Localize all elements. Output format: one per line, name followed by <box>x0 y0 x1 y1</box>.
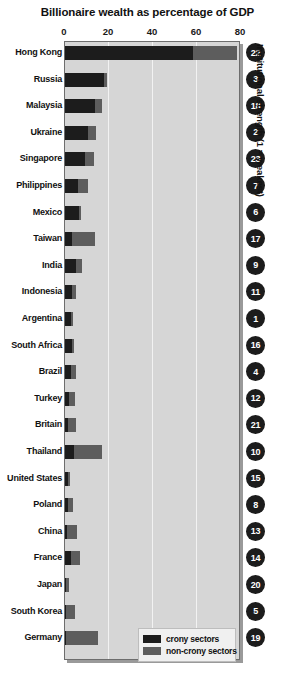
bar-segment-crony <box>65 126 88 140</box>
chart-title: Billionaire wealth as percentage of GDP <box>0 6 295 18</box>
bar-segment-non-crony <box>68 498 72 512</box>
category-label-thailand: Thailand <box>0 446 62 456</box>
category-label-ukraine: Ukraine <box>0 127 62 137</box>
category-label-indonesia: Indonesia <box>0 286 62 296</box>
institutional-strength-caption: Institutional strength (1 = weakest) <box>255 44 266 224</box>
bar-row <box>65 392 75 406</box>
category-label-hong-kong: Hong Kong <box>0 47 62 57</box>
badge-rank: 12 <box>246 389 265 408</box>
bar-segment-non-crony <box>72 339 74 353</box>
bar-row <box>65 472 70 486</box>
badge-rank: 15 <box>246 469 265 488</box>
bar-row <box>65 152 94 166</box>
category-label-argentina: Argentina <box>0 313 62 323</box>
bar-segment-non-crony <box>85 152 94 166</box>
bar-row <box>65 99 102 113</box>
category-label-south-korea: South Korea <box>0 606 62 616</box>
bar-row <box>65 126 96 140</box>
bar-row <box>65 631 98 645</box>
badge-rank: 11 <box>246 282 265 301</box>
category-label-philippines: Philippines <box>0 180 62 190</box>
bar-segment-crony <box>65 99 95 113</box>
category-label-russia: Russia <box>0 74 62 84</box>
bar-row <box>65 73 107 87</box>
bar-row <box>65 498 73 512</box>
category-label-taiwan: Taiwan <box>0 233 62 243</box>
bar-segment-non-crony <box>67 525 77 539</box>
bar-row <box>65 285 76 299</box>
bar-segment-crony <box>65 46 193 60</box>
legend-label-non-crony: non-crony sectors <box>166 646 237 656</box>
bar-segment-non-crony <box>78 179 88 193</box>
badge-rank: 4 <box>246 362 265 381</box>
legend-swatch-non-crony <box>143 647 161 655</box>
badge-rank: 16 <box>246 336 265 355</box>
category-label-poland: Poland <box>0 499 62 509</box>
bar-row <box>65 339 74 353</box>
bar-segment-crony <box>65 339 72 353</box>
category-label-germany: Germany <box>0 632 62 642</box>
bar-segment-crony <box>65 232 72 246</box>
bar-segment-non-crony <box>72 232 95 246</box>
legend-item: non-crony sectors <box>143 646 231 656</box>
bar-row <box>65 259 82 273</box>
badge-rank: 10 <box>246 442 265 461</box>
badge-rank: 9 <box>246 256 265 275</box>
bar-row <box>65 418 76 432</box>
legend-item: crony sectors <box>143 634 231 644</box>
category-label-brazil: Brazil <box>0 366 62 376</box>
bar-segment-non-crony <box>74 445 103 459</box>
category-label-united-states: United States <box>0 473 62 483</box>
bar-row <box>65 365 76 379</box>
bar-segment-non-crony <box>66 631 98 645</box>
bar-row <box>65 551 80 565</box>
x-tick-20: 20 <box>103 26 114 37</box>
bar-row <box>65 206 81 220</box>
badge-rank: 1 <box>246 309 265 328</box>
bar-segment-crony <box>65 285 72 299</box>
bar-segment-non-crony <box>95 99 103 113</box>
badge-rank: 8 <box>246 495 265 514</box>
bar-segment-non-crony <box>68 472 70 486</box>
bar-row <box>65 232 95 246</box>
category-label-britain: Britain <box>0 419 62 429</box>
bar-segment-non-crony <box>71 365 77 379</box>
category-label-turkey: Turkey <box>0 393 62 403</box>
category-label-malaysia: Malaysia <box>0 100 62 110</box>
bars-layer <box>65 42 239 659</box>
bar-row <box>65 525 77 539</box>
category-label-singapore: Singapore <box>0 153 62 163</box>
bar-segment-crony <box>65 152 85 166</box>
category-label-south-africa: South Africa <box>0 340 62 350</box>
bar-segment-non-crony <box>68 418 76 432</box>
badge-rank: 20 <box>246 575 265 594</box>
bar-segment-non-crony <box>79 206 81 220</box>
badge-rank: 17 <box>246 229 265 248</box>
bar-segment-non-crony <box>71 312 73 326</box>
bar-segment-crony <box>65 179 78 193</box>
x-tick-80: 80 <box>235 26 246 37</box>
bar-segment-non-crony <box>66 605 75 619</box>
category-label-japan: Japan <box>0 579 62 589</box>
bar-row <box>65 605 75 619</box>
chart-legend: crony sectors non-crony sectors <box>138 628 236 662</box>
chart-container: Billionaire wealth as percentage of GDP … <box>0 0 295 682</box>
badge-rank: 19 <box>246 628 265 647</box>
bar-segment-non-crony <box>193 46 237 60</box>
bar-segment-non-crony <box>104 73 107 87</box>
bar-segment-non-crony <box>88 126 96 140</box>
bar-segment-crony <box>65 73 104 87</box>
plot-area <box>64 41 240 660</box>
x-tick-60: 60 <box>191 26 202 37</box>
category-label-france: France <box>0 552 62 562</box>
x-tick-40: 40 <box>147 26 158 37</box>
x-axis-tick-labels: 020406080 <box>0 26 295 40</box>
badge-rank: 5 <box>246 602 265 621</box>
category-label-india: India <box>0 260 62 270</box>
bar-row <box>65 179 88 193</box>
bar-segment-non-crony <box>69 392 75 406</box>
bar-row <box>65 578 69 592</box>
legend-swatch-crony <box>143 635 161 643</box>
badge-rank: 21 <box>246 415 265 434</box>
badge-rank: 14 <box>246 548 265 567</box>
